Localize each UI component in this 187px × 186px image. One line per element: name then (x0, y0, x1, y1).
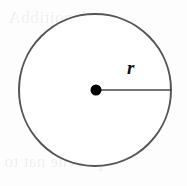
geometry-diagram-canvas (0, 0, 187, 186)
center-point-dot (91, 85, 102, 96)
circle-radius-figure: lenoitibbA qolevne nat to r (0, 0, 187, 186)
radius-label-r: r (127, 58, 134, 77)
